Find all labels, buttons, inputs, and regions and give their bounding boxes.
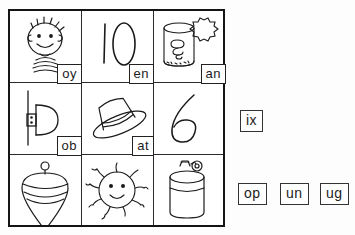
- word-box-un[interactable]: un: [280, 183, 309, 205]
- worksheet-page: oy en: [0, 0, 355, 235]
- grid-cell-jug[interactable]: [154, 155, 225, 226]
- picture-grid: oy en: [8, 9, 225, 227]
- ending-chip-an[interactable]: an: [201, 64, 226, 84]
- ending-chip-en[interactable]: en: [129, 64, 154, 84]
- grid-cell-top[interactable]: [10, 155, 81, 226]
- sun-icon: [82, 155, 153, 226]
- grid-cell-sun[interactable]: [82, 155, 153, 226]
- number-six-icon: [154, 83, 225, 154]
- grid-cell-knob[interactable]: ob: [10, 83, 81, 154]
- grid-cell-hat[interactable]: at: [82, 83, 153, 154]
- ending-chip-oy[interactable]: oy: [57, 64, 82, 84]
- ending-chip-at[interactable]: at: [132, 136, 154, 156]
- word-box-ix[interactable]: ix: [240, 110, 263, 132]
- grid-cell-can[interactable]: an: [154, 11, 225, 82]
- spinning-top-icon: [10, 155, 81, 226]
- ending-chip-ob[interactable]: ob: [57, 136, 82, 156]
- jug-icon: [154, 155, 225, 226]
- grid-cell-six[interactable]: [154, 83, 225, 154]
- word-box-op[interactable]: op: [238, 183, 267, 205]
- grid-cell-ten[interactable]: en: [82, 11, 153, 82]
- grid-cell-boy[interactable]: oy: [10, 11, 81, 82]
- word-box-ug[interactable]: ug: [320, 183, 349, 205]
